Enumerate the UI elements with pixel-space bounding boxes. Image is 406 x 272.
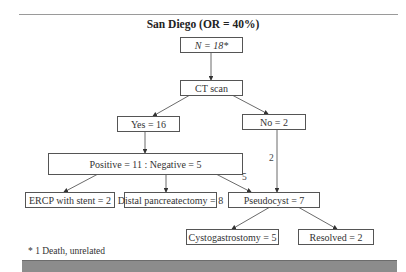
bottom-gray-bar	[22, 260, 397, 272]
node-positive-negative: Positive = 11 : Negative = 5	[48, 153, 243, 175]
node-no: No = 2	[242, 114, 306, 130]
node-ct-scan: CT scan	[180, 80, 243, 96]
node-distal-pancreatectomy: Distal pancreatectomy = 8	[124, 192, 217, 208]
node-yes: Yes = 16	[117, 116, 180, 132]
footnote: * 1 Death, unrelated	[28, 246, 105, 256]
node-total-n: N = 18*	[180, 37, 243, 53]
edge-label-no: 2	[269, 153, 274, 163]
node-ercp-stent: ERCP with stent = 2	[25, 192, 115, 208]
node-cystogastrostomy: Cystogastrostomy = 5	[186, 229, 279, 245]
node-pseudocyst: Pseudocyst = 7	[228, 192, 320, 208]
node-resolved: Resolved = 2	[298, 229, 374, 245]
edge-label-negative: 5	[242, 172, 247, 182]
